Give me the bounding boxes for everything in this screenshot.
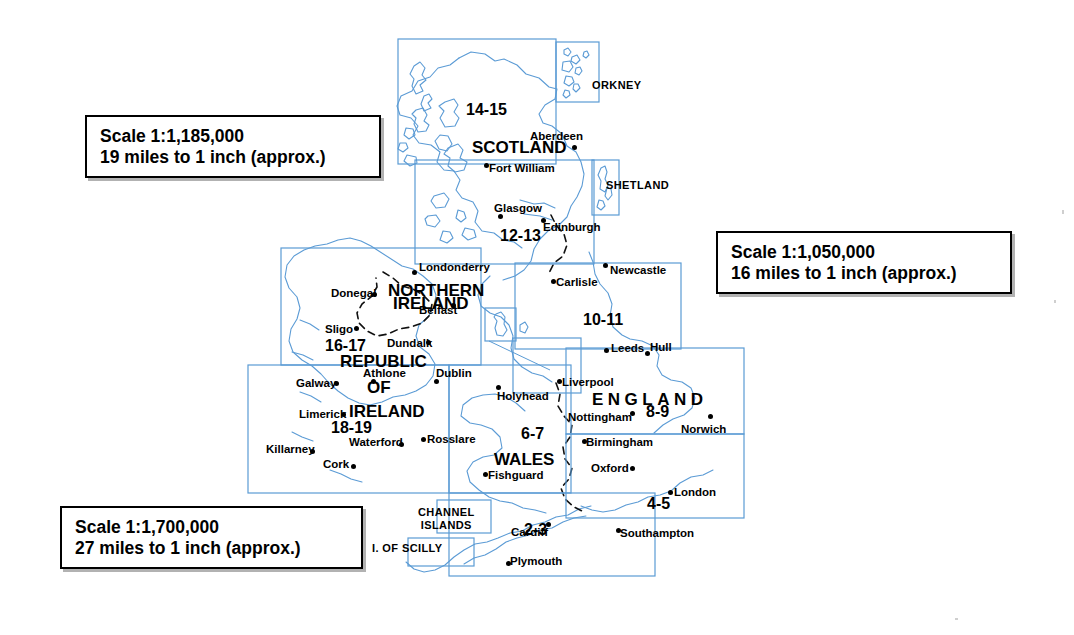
country-label: ENGLAND [592,391,708,408]
city-dot [557,379,562,384]
sheet-number[interactable]: 10-11 [583,312,623,328]
city-label: Londonderry [419,262,490,274]
city-dot [572,145,577,150]
city-dot [604,348,609,353]
scale-miles-text: 16 miles to 1 inch (approx.) [731,263,997,284]
sheet-number[interactable]: 4-5 [647,496,670,512]
city-label: Nottingham [568,412,632,424]
inset-region-label: I. OF SCILLY [372,543,442,554]
country-label: REPUBLIC [340,353,427,370]
city-dot [334,381,339,386]
city-label: Rosslare [427,434,476,446]
city-label: Fort William [489,163,555,175]
page-speckle [1062,210,1064,214]
city-label: Leeds [611,343,644,355]
city-dot [426,340,431,345]
country-label: IRELAND [393,295,469,312]
inset-region-label: CHANNEL ISLANDS [418,506,475,531]
scale-ratio-text: Scale 1:1,185,000 [100,126,366,147]
scale-miles-text: 19 miles to 1 inch (approx.) [100,147,366,168]
country-label: WALES [494,451,554,468]
box-orkney-inset [556,42,599,102]
scale-miles-text: 27 miles to 1 inch (approx.) [75,538,348,559]
country-label: SCOTLAND [472,139,566,156]
city-dot [354,326,359,331]
city-dot [551,279,556,284]
city-dot [434,379,439,384]
inset-region-label: SHETLAND [606,180,669,191]
city-dot [351,464,356,469]
city-label: Waterford [349,437,403,449]
scale-box-scotland: Scale 1:1,185,00019 miles to 1 inch (app… [85,115,381,178]
city-dot [412,270,417,275]
city-label: Plymouth [510,556,562,568]
city-dot [310,449,315,454]
city-dot [372,292,377,297]
sheet-number[interactable]: 6-7 [521,426,544,442]
scale-box-england: Scale 1:1,050,00016 miles to 1 inch (app… [716,231,1012,294]
map-index-page: AberdeenFort WilliamGlasgowEdinburghNewc… [0,0,1074,635]
city-label: Dublin [436,368,472,380]
city-label: Oxford [591,463,629,475]
city-dot [630,411,635,416]
city-dot [496,385,501,390]
country-label: IRELAND [349,403,425,420]
city-dot [645,351,650,356]
city-label: London [674,487,716,499]
city-dot [582,439,587,444]
sheet-number[interactable]: 18-19 [331,420,372,436]
inset-region-label: ORKNEY [592,80,641,91]
city-label: Donegal [331,288,376,300]
city-label: Hull [650,342,672,354]
country-label: OF [367,379,391,396]
city-label: Holyhead [497,391,549,403]
page-speckle [955,618,958,620]
city-label: Carlisle [556,277,598,289]
city-label: Norwich [681,424,726,436]
iom-leader-line [489,341,550,370]
city-dot [630,466,635,471]
city-label: Liverpool [562,377,614,389]
page-speckle [1054,300,1056,303]
city-label: Killarney [266,444,315,456]
city-dot [541,218,546,223]
city-label: Galway [296,378,336,390]
city-dot [708,414,713,419]
city-label: Birmingham [586,437,653,449]
city-label: Edinburgh [543,222,601,234]
scale-ratio-text: Scale 1:1,050,000 [731,242,997,263]
city-label: Fishguard [488,470,544,482]
sheet-number[interactable]: 2-3 [524,522,547,538]
city-dot [498,214,503,219]
scale-ratio-text: Scale 1:1,700,000 [75,517,348,538]
scale-box-ireland: Scale 1:1,700,00027 miles to 1 inch (app… [60,506,363,569]
city-label: Newcastle [610,265,666,277]
city-dot [484,163,489,168]
city-label: Southampton [620,528,694,540]
city-dot [341,412,346,417]
city-dot [603,263,608,268]
city-dot [483,472,488,477]
city-label: Glasgow [494,203,542,215]
city-label: Sligo [325,324,353,336]
city-dot [421,437,426,442]
city-dot [506,561,511,566]
sheet-number[interactable]: 14-15 [466,102,507,118]
sheet-number[interactable]: 12-13 [500,228,541,244]
city-dot [616,528,621,533]
city-label: Cork [323,459,349,471]
city-dot [399,442,404,447]
